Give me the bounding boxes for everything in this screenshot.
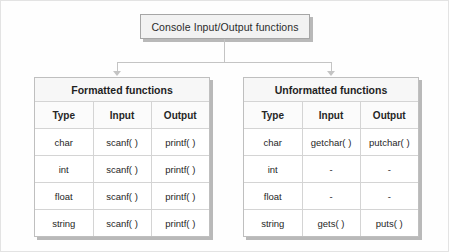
connector-stem <box>224 39 225 62</box>
table-row: float scanf( ) printf( ) <box>35 183 209 210</box>
table-header-row: Type Input Output <box>244 102 418 129</box>
table-row: int scanf( ) printf( ) <box>35 156 209 183</box>
cell-input: scanf( ) <box>93 210 151 237</box>
cell-input: - <box>302 156 360 183</box>
diagram-canvas: Console Input/Output functions Formatted… <box>0 0 449 252</box>
cell-input: gets( ) <box>302 210 360 237</box>
column-header-output: Output <box>151 102 209 129</box>
cell-type: char <box>244 129 302 156</box>
cell-output: puts( ) <box>360 210 418 237</box>
cell-type: int <box>244 156 302 183</box>
table-row: float - - <box>244 183 418 210</box>
table-row: string gets( ) puts( ) <box>244 210 418 237</box>
branch-node-formatted: Formatted functions Type Input Output ch… <box>34 77 210 237</box>
cell-output: printf( ) <box>151 210 209 237</box>
cell-input: scanf( ) <box>93 129 151 156</box>
cell-input: getchar( ) <box>302 129 360 156</box>
unformatted-functions-table: Unformatted functions Type Input Output … <box>244 78 418 236</box>
cell-type: string <box>35 210 93 237</box>
cell-output: - <box>360 183 418 210</box>
column-header-input: Input <box>302 102 360 129</box>
arrow-down-icon-right <box>327 71 335 76</box>
connector-horizontal-bar <box>117 62 332 63</box>
formatted-functions-table: Formatted functions Type Input Output ch… <box>35 78 209 236</box>
column-header-type: Type <box>35 102 93 129</box>
cell-type: float <box>244 183 302 210</box>
table-row: int - - <box>244 156 418 183</box>
root-node: Console Input/Output functions <box>140 14 310 39</box>
branch-node-unformatted: Unformatted functions Type Input Output … <box>243 77 419 237</box>
cell-output: printf( ) <box>151 183 209 210</box>
cell-output: putchar( ) <box>360 129 418 156</box>
column-header-input: Input <box>93 102 151 129</box>
cell-output: - <box>360 156 418 183</box>
column-header-output: Output <box>360 102 418 129</box>
table-title-row: Formatted functions <box>35 78 209 102</box>
cell-type: float <box>35 183 93 210</box>
table-row: char scanf( ) printf( ) <box>35 129 209 156</box>
cell-input: scanf( ) <box>93 183 151 210</box>
cell-input: scanf( ) <box>93 156 151 183</box>
arrow-down-icon-left <box>113 71 121 76</box>
table-title: Unformatted functions <box>244 78 418 102</box>
cell-type: string <box>244 210 302 237</box>
table-row: char getchar( ) putchar( ) <box>244 129 418 156</box>
cell-output: printf( ) <box>151 156 209 183</box>
cell-type: char <box>35 129 93 156</box>
table-header-row: Type Input Output <box>35 102 209 129</box>
cell-type: int <box>35 156 93 183</box>
root-node-label: Console Input/Output functions <box>151 21 298 33</box>
cell-input: - <box>302 183 360 210</box>
table-title: Formatted functions <box>35 78 209 102</box>
table-title-row: Unformatted functions <box>244 78 418 102</box>
cell-output: printf( ) <box>151 129 209 156</box>
column-header-type: Type <box>244 102 302 129</box>
table-row: string scanf( ) printf( ) <box>35 210 209 237</box>
